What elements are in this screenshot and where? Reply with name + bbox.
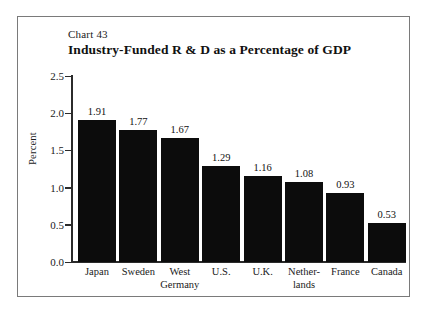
bar[interactable] (119, 130, 157, 262)
bar[interactable] (326, 193, 364, 262)
bar[interactable] (161, 138, 199, 262)
y-axis-tick-label: 2.0 (30, 107, 64, 119)
bar[interactable] (244, 176, 282, 262)
y-axis-tick (65, 187, 71, 189)
y-axis-tick-label: 1.0 (30, 182, 64, 194)
bar-group[interactable]: 1.29 (202, 76, 240, 262)
bar-value-label: 1.67 (171, 124, 189, 135)
bar-group[interactable]: 0.53 (368, 76, 406, 262)
y-axis-tick (65, 262, 71, 264)
chart-page: Chart 43 Industry-Funded R & D as a Perc… (0, 0, 428, 318)
y-axis-tick-label: 0.0 (30, 256, 64, 268)
y-axis-tick (65, 150, 71, 152)
bar[interactable] (285, 182, 323, 262)
bar-value-label: 0.53 (378, 209, 396, 220)
y-axis-tick-label: 2.5 (30, 70, 64, 82)
bar-group[interactable]: 1.67 (161, 76, 199, 262)
y-axis-tick-labels: 0.00.51.01.52.02.5 (26, 0, 64, 318)
y-axis-tick-label: 0.5 (30, 219, 64, 231)
chart-number-label: Chart 43 (68, 28, 108, 40)
category-label-line-1: Nether- (288, 266, 320, 277)
y-axis-tick (65, 113, 71, 115)
bar[interactable] (202, 166, 240, 262)
category-label-line-2: lands (276, 279, 332, 292)
category-label-line-1: U.S. (212, 266, 231, 277)
bar-value-label: 1.91 (88, 106, 106, 117)
bar-group[interactable]: 1.16 (244, 76, 282, 262)
bar-value-label: 0.93 (336, 179, 354, 190)
plot-area: 1.911.771.671.291.161.080.930.53 (72, 76, 405, 262)
bar[interactable] (78, 120, 116, 262)
category-label-line-1: West (169, 266, 190, 277)
category-label-line-2: Germany (152, 279, 208, 292)
bar-group[interactable]: 0.93 (326, 76, 364, 262)
bar-value-label: 1.77 (129, 116, 147, 127)
chart-title: Industry-Funded R & D as a Percentage of… (68, 42, 351, 58)
y-axis-tick (65, 76, 71, 78)
category-label-line-1: U.K. (252, 266, 272, 277)
y-axis-tick-label: 1.5 (30, 144, 64, 156)
category-label-line-1: France (331, 266, 360, 277)
bar[interactable] (368, 223, 406, 262)
bar-group[interactable]: 1.91 (78, 76, 116, 262)
bar-value-label: 1.16 (253, 162, 271, 173)
bar-value-label: 1.08 (295, 168, 313, 179)
bar-group[interactable]: 1.08 (285, 76, 323, 262)
x-axis-category-label: Canada (359, 266, 415, 279)
category-label-line-1: Japan (85, 266, 109, 277)
bar-value-label: 1.29 (212, 152, 230, 163)
bar-group[interactable]: 1.77 (119, 76, 157, 262)
y-axis-tick (65, 224, 71, 226)
category-label-line-1: Canada (371, 266, 403, 277)
category-label-line-1: Sweden (122, 266, 155, 277)
